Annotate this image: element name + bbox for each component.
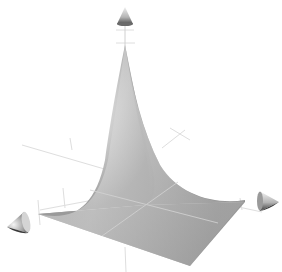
surface-plot-canvas: 3d-surface-plot — [0, 0, 282, 272]
surface-plot-svg — [0, 0, 282, 272]
y-axis-arrow-icon — [257, 192, 279, 212]
gridlines-front — [125, 247, 126, 272]
x-axis-arrow-icon — [7, 211, 32, 233]
z-axis-arrow-icon — [117, 7, 133, 26]
surface-front-face — [38, 45, 245, 266]
